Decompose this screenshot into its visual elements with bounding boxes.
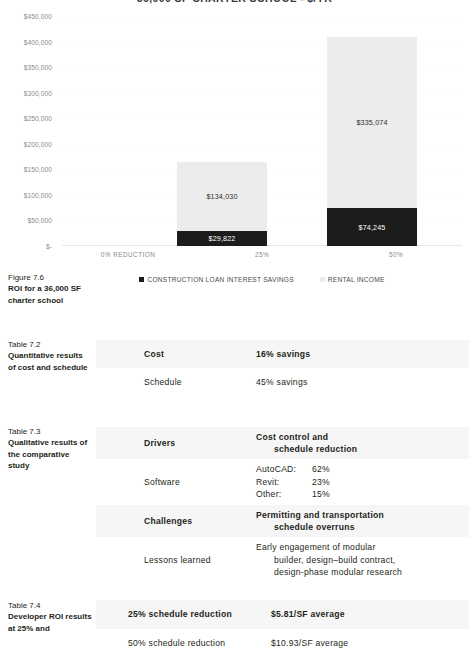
table-row: 50% schedule reduction $10.93/SF average [96,629,469,652]
x-axis-tick: 50% [389,251,403,258]
chart-legend: CONSTRUCTION LOAN INTEREST SAVINGS RENTA… [62,276,462,283]
table-cell-key: 25% schedule reduction [96,608,271,621]
legend-item-interest-savings: CONSTRUCTION LOAN INTEREST SAVINGS [139,276,293,283]
x-axis-tick: 25% [255,251,269,258]
table-row: Lessons learned Early engagement of modu… [96,537,469,583]
plot-area: $29,822 $134,030 $74,245 $335,074 [62,16,462,246]
legend-swatch-icon [139,277,144,282]
legend-item-rental-income: RENTAL INCOME [320,276,385,283]
table-caption-number: Table 7.3 [8,426,92,437]
bar-group-50: $74,245 $335,074 [327,37,417,246]
software-entry: Revit: 23% [256,476,469,489]
table-cell-key: Lessons learned [96,554,256,567]
software-percent: 23% [312,476,352,489]
table-cell-key: Schedule [96,376,256,389]
table-cell-value: $10.93/SF average [271,637,469,650]
figure-caption-text: ROI for a 36,000 SF charter school [8,283,92,306]
y-axis-tick: $150,000 [24,166,52,173]
bar-value-label: $29,822 [208,234,235,243]
y-axis-tick: $400,000 [24,38,52,45]
software-percent: 62% [312,463,352,476]
y-axis-tick: $50,000 [27,217,52,224]
legend-label: CONSTRUCTION LOAN INTEREST SAVINGS [147,276,293,283]
value-line: Permitting and transportation [256,510,384,520]
table-row: Software AutoCAD: 62% Revit: 23% Other: … [96,459,469,505]
table-cell-value: 16% savings [256,348,469,361]
figure-caption: Figure 7.6 ROI for a 36,000 SF charter s… [8,272,92,306]
bar-value-label: $74,245 [358,223,385,232]
legend-label: RENTAL INCOME [328,276,385,283]
bar-segment-interest-savings-25: $29,822 [177,231,267,246]
table-7-3: Drivers Cost control and schedule reduct… [96,427,469,583]
bar-segment-interest-savings-50: $74,245 [327,208,417,246]
table-row: Cost 16% savings [96,340,469,368]
value-line: schedule overruns [256,521,469,534]
table-cell-key: 50% schedule reduction [96,637,271,650]
y-axis-tick: $250,000 [24,115,52,122]
software-name: Revit: [256,476,312,489]
table-caption-number: Table 7.4 [8,600,92,611]
x-axis: 0% REDUCTION 25% 50% [62,251,462,263]
table-row: 25% schedule reduction $5.81/SF average [96,600,469,629]
software-entry: Other: 15% [256,488,469,501]
chart-title: 36,000 SF CHARTER SCHOOL - $/YR [0,0,469,4]
table-7-4-caption: Table 7.4 Developer ROI results at 25% a… [8,600,92,634]
y-axis-tick: $- [46,243,52,250]
table-7-3-caption: Table 7.3 Qualitative results of the com… [8,426,92,471]
gridline [62,16,462,17]
table-7-2: Cost 16% savings Schedule 45% savings [96,340,469,396]
bar-segment-rental-income-25: $134,030 [177,162,267,231]
table-caption-text: Quantitative results of cost and schedul… [8,350,92,373]
bar-group-25: $29,822 $134,030 [177,162,267,246]
table-7-2-caption: Table 7.2 Quantitative results of cost a… [8,339,92,373]
table-cell-key: Drivers [96,437,256,450]
x-axis-tick: 0% REDUCTION [101,251,155,258]
value-line: design-phase modular research [256,566,469,579]
y-axis-tick: $450,000 [24,13,52,20]
table-caption-number: Table 7.2 [8,339,92,350]
y-axis-tick: $200,000 [24,140,52,147]
table-cell-key: Software [96,476,256,489]
table-cell-value: Cost control and schedule reduction [256,431,469,456]
chart-figure: 36,000 SF CHARTER SCHOOL - $/YR $450,000… [0,0,469,292]
software-name: AutoCAD: [256,463,312,476]
table-caption-text: Qualitative results of the comparative s… [8,437,92,471]
software-entry: AutoCAD: 62% [256,463,469,476]
table-cell-value: $5.81/SF average [271,608,469,621]
table-cell-key: Challenges [96,515,256,528]
table-caption-text: Developer ROI results at 25% and [8,611,92,634]
y-axis-tick: $300,000 [24,89,52,96]
software-name: Other: [256,488,312,501]
y-axis: $450,000 $400,000 $350,000 $300,000 $250… [0,16,58,246]
table-row: Challenges Permitting and transportation… [96,505,469,537]
table-cell-value: AutoCAD: 62% Revit: 23% Other: 15% [256,463,469,501]
software-percent: 15% [312,488,352,501]
value-line: Cost control and [256,432,328,442]
table-row: Schedule 45% savings [96,368,469,396]
table-cell-value: Permitting and transportation schedule o… [256,509,469,534]
bar-segment-rental-income-50: $335,074 [327,37,417,208]
table-cell-value: 45% savings [256,376,469,389]
legend-swatch-icon [320,277,325,282]
y-axis-tick: $100,000 [24,191,52,198]
bar-value-label: $134,030 [206,192,237,201]
value-line: Early engagement of modular [256,542,376,552]
figure-caption-number: Figure 7.6 [8,272,92,283]
y-axis-tick: $350,000 [24,64,52,71]
table-cell-key: Cost [96,348,256,361]
value-line: schedule reduction [256,443,469,456]
bar-value-label: $335,074 [356,118,387,127]
table-row: Drivers Cost control and schedule reduct… [96,427,469,459]
table-7-4: 25% schedule reduction $5.81/SF average … [96,600,469,652]
table-cell-value: Early engagement of modular builder, des… [256,541,469,579]
value-line: builder, design–build contract, [256,554,469,567]
